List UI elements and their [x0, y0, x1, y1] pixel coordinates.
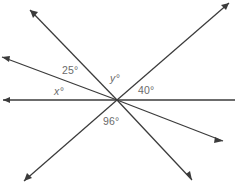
angle-label-40: 40°	[138, 85, 154, 96]
angle-diagram-figure: 25° x° y° 40° 96°	[0, 0, 235, 185]
ray-upper-right	[117, 3, 229, 100]
angle-label-25: 25°	[62, 65, 78, 76]
angle-label-y: y°	[110, 73, 120, 84]
arrowhead-upper-left-shallow	[2, 56, 10, 62]
ray-lower-right-steep	[117, 100, 192, 180]
ray-lower-left	[24, 100, 117, 181]
arrowhead-lower-right-steep	[186, 171, 192, 180]
ray-lower-right-shallow	[117, 100, 223, 141]
angle-label-96: 96°	[103, 116, 119, 127]
arrowhead-lower-left	[24, 173, 32, 181]
ray-upper-left-steep	[30, 10, 117, 100]
arrowhead-left-horizontal	[3, 97, 10, 103]
angle-diagram-canvas	[0, 0, 235, 185]
angle-label-x: x°	[54, 86, 64, 97]
